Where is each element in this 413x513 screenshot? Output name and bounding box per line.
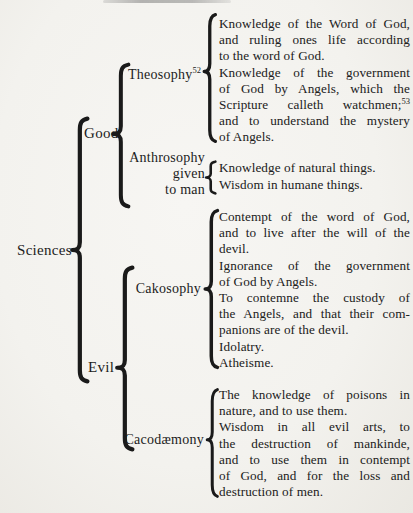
text-line: the destruction of mankinde, xyxy=(219,436,410,452)
text-line: Knowledge of the Word of God, xyxy=(219,16,410,32)
text-line: Wisdom in all evil arts, to xyxy=(219,419,410,435)
cakosophy-label: Cakosophy xyxy=(110,281,201,297)
text-line: To contemne the custody of xyxy=(219,290,410,306)
text-line: and to understand the mystery xyxy=(219,113,410,129)
text-line: Knowledge of the government xyxy=(219,65,410,81)
footnote-ref-52: 52 xyxy=(193,65,202,75)
text-line: devil. xyxy=(219,241,410,257)
anthrosophy-label: Anthrosophy given to man xyxy=(110,150,205,198)
theosophy-label: Theosophy52 xyxy=(110,67,201,83)
theosophy-text: Knowledge of the Word of God, and ruling… xyxy=(219,16,410,146)
sciences-brace xyxy=(71,117,88,383)
anthrosophy-text: Knowledge of natural things. Wisdom in h… xyxy=(219,159,410,193)
cacodaemony-text: The knowledge of poisons in nature, and … xyxy=(219,387,410,500)
text-line: nature, and to use them. xyxy=(219,403,410,419)
book-page: Sciences Good Theosophy52 Knowledge of t… xyxy=(0,0,413,513)
text-line: of God, and for the loss and xyxy=(219,468,410,484)
text-line: and to live after the will of the xyxy=(219,225,410,241)
text-line: and to use them in contempt xyxy=(219,452,410,468)
text-line: Contempt of the word of God, xyxy=(219,209,410,225)
cakosophy-brace xyxy=(204,209,218,369)
evil-label: Evil xyxy=(88,359,114,376)
cakosophy-text: Contempt of the word of God, and to live… xyxy=(219,209,410,371)
text-line: destruction of men. xyxy=(219,484,410,500)
text-line: panions are of the devil. xyxy=(219,322,410,338)
theosophy-brace xyxy=(203,13,216,143)
text-line: of God by Angels. xyxy=(219,274,410,290)
text-line: the Angels, and that their com- xyxy=(219,306,410,322)
footnote-ref-53: 53 xyxy=(402,96,411,106)
sciences-label: Sciences xyxy=(17,242,72,259)
text-line: of Angels. xyxy=(219,129,410,145)
text-line: Atheisme. xyxy=(219,355,410,371)
text-line: Wisdom in humane things. xyxy=(219,176,410,193)
cropped-header-fragment xyxy=(103,0,231,3)
cacodaemony-label: Cacodæmony xyxy=(110,432,204,448)
cacodaemony-brace xyxy=(206,388,218,498)
text-line: and ruling ones life according xyxy=(219,32,410,48)
text-line: Scripture calleth watchmen;53 xyxy=(219,97,410,113)
text-line: of God by Angels, which the xyxy=(219,81,410,97)
text-line: Ignorance of the government xyxy=(219,258,410,274)
anthrosophy-brace xyxy=(205,160,216,195)
text-line: to the word of God. xyxy=(219,48,410,64)
text-line: Knowledge of natural things. xyxy=(219,159,410,176)
text-line: Idolatry. xyxy=(219,339,410,355)
text-line: The knowledge of poisons in xyxy=(219,387,410,403)
